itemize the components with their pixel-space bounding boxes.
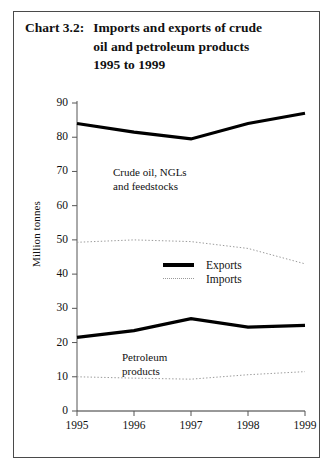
annotation-crude-oil: Crude oil, NGLs and feedstocks (113, 166, 187, 193)
legend-label-exports: Exports (206, 259, 242, 271)
annotation-petroleum-line-1: Petroleum (122, 351, 167, 363)
chart-legend: Exports Imports (163, 258, 242, 286)
annotation-petroleum: Petroleum products (122, 351, 167, 378)
series-line-0 (77, 113, 305, 139)
legend-item-imports: Imports (163, 272, 242, 286)
legend-swatch-imports (163, 272, 194, 286)
legend-item-exports: Exports (163, 258, 242, 272)
annotation-petroleum-line-2: products (122, 365, 160, 377)
series-line-2 (77, 319, 305, 338)
legend-label-imports: Imports (206, 273, 242, 285)
annotation-crude-line-1: Crude oil, NGLs (113, 166, 187, 178)
legend-swatch-exports (163, 258, 194, 272)
plot-canvas (0, 0, 335, 472)
plot-area: Million tonnes 0102030405060708090 19951… (0, 0, 335, 472)
chart-figure: Chart 3.2: Imports and exports of crude … (0, 0, 335, 472)
series-line-3 (77, 372, 305, 380)
annotation-crude-line-2: and feedstocks (113, 180, 178, 192)
